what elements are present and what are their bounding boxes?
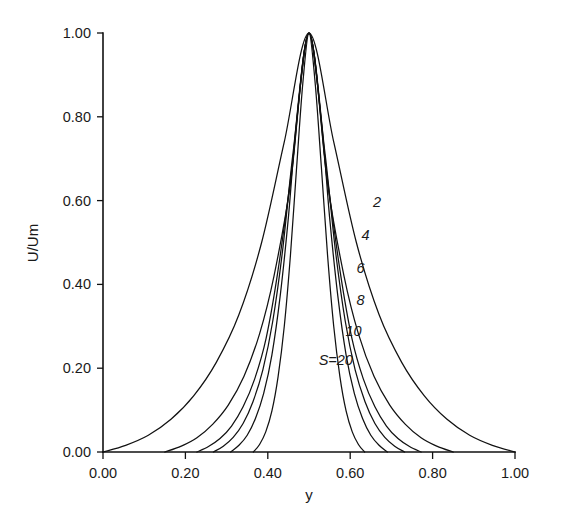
y-axis-ticks — [97, 33, 103, 452]
y-axis-title: U/Um — [24, 224, 41, 262]
y-axis-tick-labels: 0.000.200.400.600.801.00 — [63, 25, 91, 460]
x-axis-tick-labels: 0.000.200.400.600.801.00 — [89, 465, 529, 481]
y-tick-label: 0.40 — [63, 276, 91, 292]
axes — [103, 33, 515, 452]
y-tick-label: 1.00 — [63, 25, 91, 41]
curve-label-4: 4 — [361, 227, 369, 243]
y-tick-label: 0.80 — [63, 109, 91, 125]
x-tick-label: 1.00 — [501, 465, 529, 481]
data-curves — [103, 33, 515, 452]
curve-s-20 — [253, 33, 364, 452]
y-tick-label: 0.60 — [63, 193, 91, 209]
x-tick-label: 0.80 — [418, 465, 446, 481]
x-tick-label: 0.20 — [171, 465, 199, 481]
curve-label-2: 2 — [372, 194, 381, 210]
curve-s-8 — [213, 33, 404, 452]
x-tick-label: 0.60 — [336, 465, 364, 481]
curve-label-s-20: S=20 — [319, 352, 353, 368]
x-axis-ticks — [103, 452, 515, 459]
y-tick-label: 0.20 — [63, 360, 91, 376]
curve-s-4 — [165, 33, 453, 452]
velocity-profile-chart: 0.000.200.400.600.801.00 0.000.200.400.6… — [0, 0, 571, 507]
x-axis-title: y — [305, 486, 313, 503]
curve-label-8: 8 — [356, 292, 364, 308]
curve-s-6 — [197, 33, 421, 452]
x-tick-label: 0.00 — [89, 465, 117, 481]
curve-s-2 — [103, 33, 515, 452]
curve-label-10: 10 — [345, 323, 361, 339]
x-tick-label: 0.40 — [254, 465, 282, 481]
chart-figure: 0.000.200.400.600.801.00 0.000.200.400.6… — [0, 0, 571, 507]
curve-label-6: 6 — [356, 260, 365, 276]
curve-annotations: 246810S=20 — [319, 194, 381, 368]
y-tick-label: 0.00 — [63, 444, 91, 460]
